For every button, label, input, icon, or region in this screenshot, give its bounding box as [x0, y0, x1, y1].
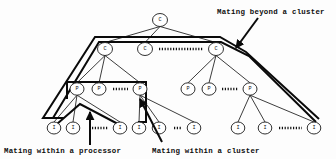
node-cluster: C — [98, 43, 113, 56]
tree-edge — [209, 56, 216, 83]
node-label: I — [263, 125, 266, 131]
tree-edge — [250, 95, 265, 122]
node-processor: P — [181, 83, 195, 95]
node-cluster: C — [138, 43, 153, 56]
mating-hierarchy-diagram: CCCCPPPPPPIIIIIIIII Mating beyond a clus… — [0, 0, 336, 159]
node-processor: P — [70, 83, 84, 95]
node-individual: I — [66, 122, 80, 134]
node-label: P — [186, 86, 189, 92]
node-label: I — [236, 125, 239, 131]
node-label: C — [158, 17, 161, 23]
caption-within-cluster: Mating within a cluster — [152, 147, 260, 155]
node-label: I — [192, 125, 195, 131]
tree-edge — [238, 95, 250, 122]
node-label: P — [75, 86, 78, 92]
node-label: I — [137, 125, 140, 131]
node-label: C — [103, 46, 106, 52]
node-label: P — [138, 86, 141, 92]
tree-edge — [188, 56, 216, 83]
node-label: C — [143, 46, 146, 52]
node-individual: I — [113, 122, 127, 134]
tree-edge — [99, 56, 105, 83]
node-processor: P — [202, 83, 216, 95]
caption-within-processor: Mating within a processor — [4, 147, 121, 155]
node-label: I — [71, 125, 74, 131]
node-label: I — [118, 125, 121, 131]
node-label: I — [312, 125, 315, 131]
tree-edge — [250, 95, 314, 122]
node-individual: I — [187, 122, 201, 134]
node-cluster: C — [209, 43, 224, 56]
tree-edge — [77, 95, 120, 122]
node-individual: I — [132, 122, 146, 134]
diagram-canvas: CCCCPPPPPPIIIIIIIII Mating beyond a clus… — [0, 0, 336, 159]
tree-edge — [216, 56, 250, 83]
mating-region-outlines — [43, 37, 319, 124]
tree-nodes: CCCCPPPPPPIIIIIIIII — [47, 14, 321, 135]
tree-edge — [105, 27, 160, 43]
within-cluster-arrow — [140, 99, 162, 142]
node-label: I — [157, 125, 160, 131]
beyond-cluster-arrow — [236, 18, 258, 48]
tree-edge — [160, 27, 216, 43]
node-root: C — [153, 14, 168, 27]
tree-edge — [105, 56, 140, 83]
node-processor: P — [243, 83, 257, 95]
node-individual: I — [258, 122, 272, 134]
within-processor-outline — [57, 104, 118, 124]
node-label: P — [207, 86, 210, 92]
ellipsis-marks — [92, 49, 302, 128]
node-processor: P — [92, 83, 106, 95]
tree-edge — [140, 95, 194, 122]
node-label: I — [52, 125, 55, 131]
caption-beyond-cluster: Mating beyond a cluster — [217, 8, 325, 16]
node-individual: I — [231, 122, 245, 134]
node-individual: I — [47, 122, 61, 134]
node-processor: P — [133, 83, 147, 95]
node-label: C — [214, 46, 217, 52]
node-individual: I — [307, 122, 321, 134]
node-label: P — [248, 86, 251, 92]
node-label: P — [97, 86, 100, 92]
